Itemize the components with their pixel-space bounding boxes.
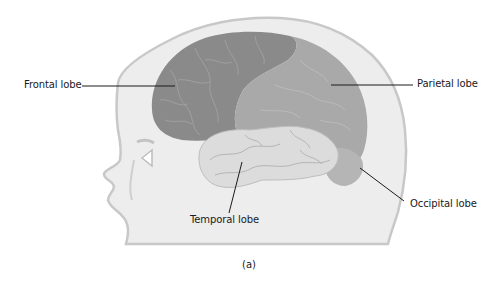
figure-caption: (a) [242, 259, 256, 270]
brain-diagram-graphic [0, 0, 494, 286]
temporal-lobe-label: Temporal lobe [190, 214, 259, 225]
brain-lobes-figure: Frontal lobe Parietal lobe Temporal lobe… [0, 0, 494, 286]
occipital-lobe-label: Occipital lobe [410, 198, 477, 209]
parietal-lobe-label: Parietal lobe [417, 78, 478, 89]
frontal-lobe-label: Frontal lobe [24, 79, 82, 90]
